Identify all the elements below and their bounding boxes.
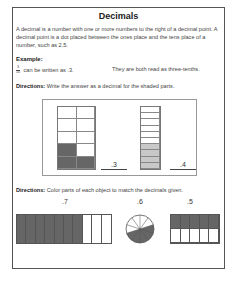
grid-answer[interactable]: .3 <box>101 161 127 170</box>
tenths-bar-horizontal[interactable] <box>16 214 112 244</box>
directions-2-label: Directions: <box>16 187 45 193</box>
rect-label: .5 <box>180 198 200 205</box>
exercise-1-box: .3 .4 <box>42 99 197 176</box>
tenths-circle[interactable] <box>125 214 155 244</box>
tenths-grid-2x5 <box>57 106 96 170</box>
bar-answer[interactable]: .4 <box>170 161 196 170</box>
directions-1-label: Directions: <box>16 83 45 89</box>
directions-2: Directions: Color parts of each object t… <box>16 187 221 193</box>
example-label: Example: <box>16 56 43 62</box>
bar-label: .7 <box>55 198 75 205</box>
directions-1: Directions: Write the answer as a decima… <box>16 83 221 89</box>
fraction-denominator: 10 <box>16 71 20 75</box>
example-fraction: 3 10 <box>16 66 20 74</box>
tenths-rect-5x2[interactable] <box>170 214 220 244</box>
intro-paragraph: A decimal is a number with one or more n… <box>16 25 221 50</box>
directions-2-text: Color parts of each object to match the … <box>45 187 183 193</box>
example-left-text: can be written as .3. <box>24 67 74 73</box>
example-right-text: They are both read as three-tenths. <box>112 66 200 72</box>
example-row: 3 10 can be written as .3. They are both… <box>16 66 221 74</box>
directions-1-text: Write the answer as a decimal for the sh… <box>45 83 174 89</box>
circle-label: .6 <box>130 198 150 205</box>
page-title: Decimals <box>13 11 224 21</box>
tenths-bar-vertical <box>140 106 161 170</box>
